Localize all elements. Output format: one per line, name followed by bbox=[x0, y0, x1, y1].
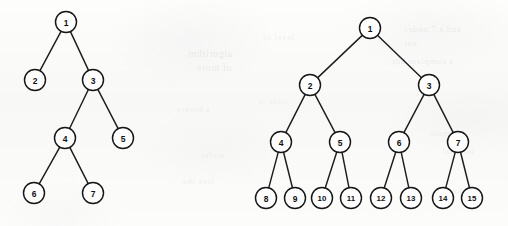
tree-edge bbox=[315, 94, 336, 133]
edge-group bbox=[269, 35, 470, 189]
tree-edge bbox=[286, 94, 306, 133]
tree-edge bbox=[269, 152, 279, 189]
tree-edge bbox=[404, 94, 425, 133]
node-label: 13 bbox=[407, 194, 416, 203]
node-label: 15 bbox=[468, 194, 477, 203]
tree-node[interactable]: 14 bbox=[433, 188, 454, 209]
tree-edge bbox=[460, 152, 469, 189]
tree-node[interactable]: 7 bbox=[448, 132, 469, 153]
node-label: 12 bbox=[377, 194, 386, 203]
node-label: 9 bbox=[293, 194, 298, 204]
right-binary-tree: 123456789101112131415 bbox=[0, 0, 508, 226]
tree-edge bbox=[377, 35, 422, 78]
node-label: 8 bbox=[264, 194, 269, 204]
node-label: 14 bbox=[439, 194, 448, 203]
tree-node[interactable]: 8 bbox=[256, 188, 277, 209]
node-label: 10 bbox=[318, 194, 327, 203]
node-label: 2 bbox=[308, 81, 313, 91]
tree-edge bbox=[342, 152, 349, 188]
node-label: 3 bbox=[427, 81, 432, 91]
tree-edge bbox=[434, 94, 454, 133]
node-label: 1 bbox=[368, 24, 373, 34]
figure-canvas: algorithmof morea binarynodestree theand… bbox=[0, 0, 508, 226]
tree-edge bbox=[317, 35, 363, 78]
tree-node[interactable]: 4 bbox=[271, 132, 292, 153]
tree-node[interactable]: 9 bbox=[285, 188, 306, 209]
tree-node[interactable]: 5 bbox=[330, 132, 351, 153]
tree-edge bbox=[325, 152, 337, 189]
tree-node[interactable]: 3 bbox=[419, 75, 440, 96]
node-label: 11 bbox=[347, 194, 356, 203]
tree-edge bbox=[283, 152, 292, 189]
tree-edge bbox=[384, 152, 396, 189]
tree-node[interactable]: 13 bbox=[401, 188, 422, 209]
tree-node[interactable]: 2 bbox=[300, 75, 321, 96]
tree-node[interactable]: 15 bbox=[462, 188, 483, 209]
node-label: 7 bbox=[456, 138, 461, 148]
tree-node[interactable]: 12 bbox=[371, 188, 392, 209]
node-label: 6 bbox=[397, 138, 402, 148]
tree-node[interactable]: 1 bbox=[360, 18, 381, 39]
node-label: 5 bbox=[338, 138, 343, 148]
node-label: 4 bbox=[279, 138, 284, 148]
tree-edge bbox=[401, 152, 409, 188]
tree-node[interactable]: 11 bbox=[341, 188, 362, 209]
tree-node[interactable]: 6 bbox=[389, 132, 410, 153]
tree-node[interactable]: 10 bbox=[312, 188, 333, 209]
tree-edge bbox=[446, 152, 456, 189]
